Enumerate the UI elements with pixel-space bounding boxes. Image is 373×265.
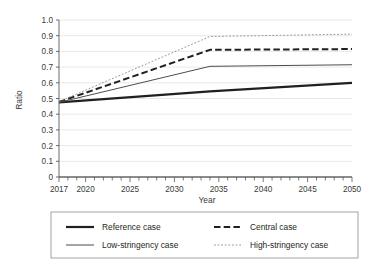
x-tick-label: 2050 (343, 185, 362, 194)
y-tick-label: 0.6 (42, 79, 54, 88)
y-tick-label: 0.1 (42, 157, 54, 166)
chart-container: 00.10.20.30.40.50.60.70.80.91.0 20172020… (0, 0, 373, 265)
legend-label-low-stringency-case: Low-stringency case (102, 240, 179, 250)
y-tick-label: 0.8 (42, 47, 54, 56)
x-tick-label: 2025 (121, 185, 140, 194)
y-tick-label: 0.9 (42, 32, 54, 41)
y-tick-label: 0.2 (42, 142, 54, 151)
x-tick-label: 2030 (165, 185, 184, 194)
y-tick-label: 0.3 (42, 126, 54, 135)
x-axis-title: Year (199, 195, 216, 205)
ratio-line-chart: 00.10.20.30.40.50.60.70.80.91.0 20172020… (0, 0, 373, 265)
y-tick-label: 1.0 (42, 16, 54, 25)
legend-label-high-stringency-case: High-stringency case (250, 240, 329, 250)
x-tick-label: 2045 (298, 185, 317, 194)
y-axis-title: Ratio (14, 90, 24, 110)
y-tick-label: 0 (48, 173, 53, 182)
y-tick-label: 0.5 (42, 95, 54, 104)
x-tick-label: 2017 (50, 185, 69, 194)
legend-label-central-case: Central case (250, 222, 297, 232)
y-tick-label: 0.7 (42, 63, 54, 72)
x-tick-label: 2035 (210, 185, 229, 194)
legend-label-reference-case: Reference case (102, 222, 161, 232)
x-tick-label: 2040 (254, 185, 273, 194)
y-tick-label: 0.4 (42, 110, 54, 119)
chart-background (0, 0, 373, 265)
x-tick-label: 2020 (77, 185, 96, 194)
